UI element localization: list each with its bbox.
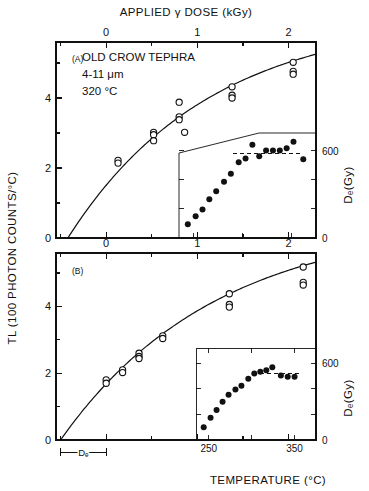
de-bracket-label: Dₑ (78, 447, 89, 458)
panel-a-inset-datapoint (193, 213, 199, 219)
panel-a-inset-datapoint (185, 221, 191, 227)
panel-a-inset-datapoint (290, 139, 296, 145)
panel-b-ytick-label: 4 (45, 300, 51, 312)
panel-a-inset-right-label-600: 600 (322, 146, 339, 157)
panel-b-inset-datapoint (278, 372, 284, 378)
panel-a-datapoint (151, 138, 157, 144)
panel-b-right-axis-title: Dₑ(Gy) (342, 379, 354, 416)
panel-a-inset-datapoint (256, 153, 262, 159)
panel-b-inset-datapoint (245, 376, 251, 382)
panel-a-inset-datapoint (243, 156, 249, 162)
panel-a-inset-datapoint (270, 148, 276, 154)
panel-a-right-axis-title: Dₑ(Gy) (342, 166, 354, 203)
panel-a-inset-datapoint (206, 196, 212, 202)
panel-b-inset-datapoint (269, 364, 275, 370)
panel-b-inset-right-label-0: 0 (322, 435, 328, 446)
panel-b-datapoint (103, 380, 109, 386)
panel-b-ytick-label: 0 (45, 434, 51, 446)
panel-a-inset-datapoint (284, 145, 290, 151)
panel-a-inset-datapoint (221, 179, 227, 185)
panel-b-fit-curve (61, 262, 316, 440)
bottom-axis-title: TEMPERATURE (°C) (210, 474, 326, 486)
panel-b-xtick-label: 2 (286, 237, 292, 249)
figure-root: 012012024024(A)OLD CROW TEPHRA4-11 μm320… (0, 0, 369, 491)
panel-a-inset-datapoint (213, 188, 219, 194)
panel-b-inset-datapoint (257, 369, 263, 375)
panel-a-datapoint (290, 59, 296, 65)
panel-a-inset-right-label-0: 0 (322, 233, 328, 244)
panel-a-inset-datapoint (199, 207, 205, 213)
panel-b-datapoint (226, 304, 232, 310)
panel-b-id: (B) (72, 266, 84, 276)
panel-a-inset-leader (179, 133, 316, 238)
panel-b-inset-frame (196, 348, 316, 440)
panel-b-ytick-label: 2 (45, 367, 51, 379)
panel-b-inset-datapoint (292, 374, 298, 380)
panel-a-inset-datapoint (263, 148, 269, 154)
panel-b-inset-datapoint (232, 387, 238, 393)
panel-b-frame (56, 253, 316, 440)
panel-b-inset-datapoint (208, 415, 214, 421)
panel-a-datapoint (229, 95, 235, 101)
panel-a-datapoint (182, 129, 188, 135)
panel-b-datapoint (120, 369, 126, 375)
panel-a-inset-datapoint (228, 171, 234, 177)
left-axis-title: TL (100 PHOTON COUNTS/°C) (6, 171, 18, 344)
panel-a-ytick-label: 4 (45, 92, 51, 104)
top-axis-title: APPLIED γ DOSE (kGy) (120, 6, 253, 18)
panel-a-datapoint (115, 160, 121, 166)
panel-a-annot-1: 4-11 μm (82, 68, 124, 80)
panel-b-inset-datapoint (220, 399, 226, 405)
panel-a-ytick-label: 0 (45, 232, 51, 244)
panel-b-inset-datapoint (251, 371, 257, 377)
panel-b-inset-datapoint (201, 424, 207, 430)
panel-b-datapoint (226, 291, 232, 297)
panel-a-inset-datapoint (236, 159, 242, 165)
panel-a-xtick-label: 2 (286, 26, 292, 38)
panel-b-xtick-label: 0 (103, 237, 109, 249)
panel-b-datapoint (300, 282, 306, 288)
panel-b-inset-datapoint (285, 374, 291, 380)
panel-b-inset-datapoint (226, 392, 232, 398)
panel-b-datapoint (136, 355, 142, 361)
panel-b-inset-datapoint (263, 367, 269, 373)
panel-a-annot-2: 320 °C (82, 85, 117, 97)
panel-a-datapoint (229, 84, 235, 90)
panel-a-fit-curve (68, 54, 316, 238)
panel-a-inset-datapoint (300, 156, 306, 162)
panel-b-inset-xtick-label-350: 350 (286, 443, 303, 454)
panel-a-inset-datapoint (277, 148, 283, 154)
figure-canvas: 012012024024(A)OLD CROW TEPHRA4-11 μm320… (0, 0, 369, 491)
panel-a-xtick-label: 1 (194, 26, 200, 38)
panel-b-inset-datapoint (238, 383, 244, 389)
panel-a-datapoint (290, 71, 296, 77)
panel-a-annot-0: OLD CROW TEPHRA (82, 51, 195, 63)
panel-b-datapoint (160, 335, 166, 341)
panel-a-inset-datapoint (249, 142, 255, 148)
panel-b-inset-xtick-label-250: 250 (201, 443, 218, 454)
panel-a-ytick-label: 2 (45, 162, 51, 174)
panel-a-datapoint (176, 117, 182, 123)
panel-b-datapoint (300, 264, 306, 270)
panel-b-xtick-label: 1 (194, 237, 200, 249)
panel-b-inset-datapoint (214, 407, 220, 413)
panel-a-datapoint (151, 132, 157, 138)
panel-a-xtick-label: 0 (103, 26, 109, 38)
panel-b-inset-right-label-600: 600 (322, 358, 339, 369)
panel-a-datapoint (176, 99, 182, 105)
